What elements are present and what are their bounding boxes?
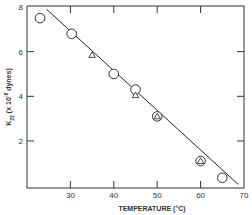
x-tick-label: 40 <box>109 191 118 200</box>
y-axis-title: K22 (x 10-8 dynes) <box>3 68 15 126</box>
circle-marker <box>109 69 119 79</box>
data-markers <box>35 13 227 182</box>
x-tick-label: 70 <box>240 191 249 200</box>
y-tick-label: 6 <box>19 48 24 57</box>
circle-marker <box>67 29 77 39</box>
x-tick-labels: 3040506070 <box>66 191 249 200</box>
y-tick-labels: 2468 <box>19 3 24 146</box>
y-tick-label: 8 <box>19 3 24 12</box>
x-tick-label: 30 <box>66 191 75 200</box>
x-tick-label: 60 <box>196 191 205 200</box>
y-tick-label: 4 <box>19 92 24 101</box>
x-axis-title: TEMPERATURE (°C) <box>118 205 185 213</box>
x-tick-label: 50 <box>153 191 162 200</box>
y-tick-label: 2 <box>19 137 24 146</box>
circle-marker <box>35 13 45 23</box>
circle-marker <box>218 173 228 183</box>
chart: 3040506070 2468 TEMPERATURE (°C) K22 (x … <box>0 0 252 215</box>
